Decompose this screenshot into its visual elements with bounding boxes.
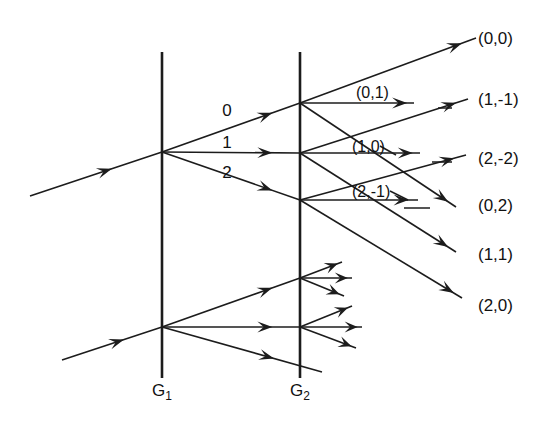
output-order-label-11: (1,1) [478,245,513,264]
diffraction-figure: G1G2012(0,1)(1,0)(2,-1)(0,0)(1,-1)(2,-2)… [0,0,558,427]
output-order-label-00: (0,0) [478,29,513,48]
ray-ray-11 [300,153,456,252]
output-order-label-2m2: (2,-2) [478,149,519,168]
ray-lower-order-0 [162,278,300,327]
ray-upper-order-1 [162,152,300,153]
output-order-label-1m1: (1,-1) [478,90,519,109]
ray-lines-group [30,38,476,372]
inline-order-label-10: (1,0) [352,138,385,155]
ray-lower-input [62,327,162,360]
order-label-2: 2 [222,163,231,182]
inline-order-label-2m1: (2,-1) [352,183,390,200]
inline-order-label-01: (0,1) [356,84,389,101]
grating-label-g2: G2 [290,381,310,403]
arrowheads-group [96,43,462,359]
output-order-label-02: (0,2) [478,196,513,215]
labels-group: G1G2012(0,1)(1,0)(2,-1)(0,0)(1,-1)(2,-2)… [152,29,519,403]
diffraction-svg: G1G2012(0,1)(1,0)(2,-1)(0,0)(1,-1)(2,-2)… [0,0,558,427]
ray-upper-input [30,152,162,196]
grating-label-g1: G1 [152,381,172,403]
order-label-0: 0 [222,101,231,120]
arrowhead-ray-11 [433,234,449,247]
arrowhead-ray-20 [438,281,454,293]
order-label-1: 1 [222,133,231,152]
ray-ray-20 [300,200,462,298]
ray-lower-order-2 [162,327,322,372]
arrowhead-ray-02 [433,189,448,202]
output-order-label-20: (2,0) [478,296,513,315]
